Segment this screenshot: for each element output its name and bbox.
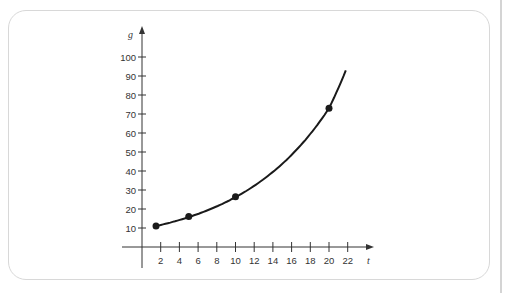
x-tick-label: 20 <box>324 255 335 266</box>
y-tick-label: 50 <box>125 147 136 158</box>
data-curve <box>156 70 346 226</box>
y-tick-label: 60 <box>125 128 136 139</box>
x-tick-label: 12 <box>249 255 260 266</box>
y-tick-label: 40 <box>125 166 136 177</box>
y-axis-arrow-icon <box>139 26 145 34</box>
y-tick-label: 30 <box>125 185 136 196</box>
x-tick-label: 10 <box>230 255 241 266</box>
y-tick-label: 90 <box>125 71 136 82</box>
x-tick-label: 16 <box>286 255 297 266</box>
x-tick-label: 22 <box>342 255 353 266</box>
data-point <box>153 223 160 230</box>
y-tick-label: 80 <box>125 90 136 101</box>
x-axis-label: t <box>367 255 370 266</box>
y-tick-label: 20 <box>125 204 136 215</box>
data-point <box>232 193 239 200</box>
y-axis-label: g <box>128 29 133 40</box>
x-tick-label: 2 <box>158 255 163 266</box>
exponential-chart: gt10203040506070809010024681012141618202… <box>0 0 507 293</box>
y-tick-label: 10 <box>125 223 136 234</box>
x-tick-label: 18 <box>305 255 316 266</box>
x-tick-label: 6 <box>195 255 200 266</box>
x-tick-label: 8 <box>214 255 219 266</box>
data-point <box>185 213 192 220</box>
data-point <box>326 105 333 112</box>
x-tick-label: 4 <box>177 255 182 266</box>
y-tick-label: 70 <box>125 109 136 120</box>
x-axis-arrow-icon <box>366 244 374 250</box>
y-tick-label: 100 <box>120 52 136 63</box>
x-tick-label: 14 <box>268 255 279 266</box>
